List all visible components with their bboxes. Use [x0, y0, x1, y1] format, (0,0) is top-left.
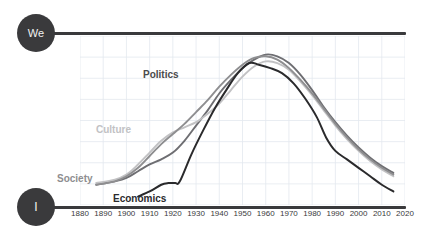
i-circle-icon: I [17, 188, 55, 226]
x-tick-1930: 1930 [187, 209, 205, 218]
we-circle-icon: We [17, 14, 55, 52]
chart-canvas: We I Politics Culture Society Economics … [0, 0, 423, 242]
x-tick-1900: 1900 [118, 209, 136, 218]
x-tick-1940: 1940 [210, 209, 228, 218]
x-tick-1910: 1910 [141, 209, 159, 218]
i-pole-label: I [34, 200, 38, 214]
x-tick-1970: 1970 [280, 209, 298, 218]
x-tick-1960: 1960 [257, 209, 275, 218]
series-label-economics: Economics [113, 193, 166, 204]
x-tick-1890: 1890 [94, 209, 112, 218]
x-tick-1990: 1990 [326, 209, 344, 218]
x-tick-2020: 2020 [396, 209, 414, 218]
x-tick-2000: 2000 [350, 209, 368, 218]
x-tick-2010: 2010 [373, 209, 391, 218]
series-label-culture: Culture [96, 124, 131, 135]
series-label-society: Society [57, 173, 93, 184]
x-tick-1950: 1950 [234, 209, 252, 218]
x-axis-tick-labels: 1880189019001910192019301940195019601970… [80, 209, 405, 225]
x-tick-1980: 1980 [303, 209, 321, 218]
series-lines [80, 36, 405, 205]
x-tick-1880: 1880 [71, 209, 89, 218]
plot-area [80, 36, 405, 205]
top-axis-bar [50, 32, 406, 35]
series-label-politics: Politics [143, 69, 179, 80]
we-pole-label: We [28, 27, 45, 39]
x-tick-1920: 1920 [164, 209, 182, 218]
